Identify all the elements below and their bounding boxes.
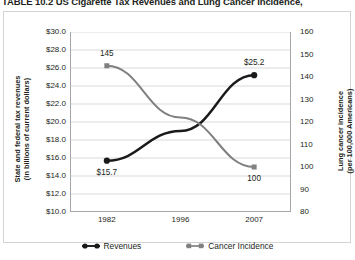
chart-plot-frame: State and federal tax revenues (in billi…	[3, 11, 351, 243]
left-axis-tick: $24.0	[26, 81, 66, 91]
right-axis-tick: 80	[300, 207, 340, 217]
left-axis-tick: $14.0	[26, 171, 66, 181]
plot-area: $15.7$25.2145100	[70, 32, 291, 212]
left-axis-tick: $18.0	[26, 135, 66, 145]
left-axis-tick: $20.0	[26, 117, 66, 127]
right-axis-tick: 130	[300, 95, 340, 105]
right-axis-tick: 110	[300, 140, 340, 150]
right-axis-tick: 90	[300, 185, 340, 195]
left-axis-tick: $16.0	[26, 153, 66, 163]
page-title: TABLE 10.2 US Cigarette Tax Revenues and…	[2, 0, 355, 8]
left-axis-tick: $22.0	[26, 99, 66, 109]
chart-figure: TABLE 10.2 US Cigarette Tax Revenues and…	[0, 0, 355, 260]
legend-label-cancer-incidence: Cancer Incidence	[208, 241, 273, 251]
left-axis-tick-labels: $30.0$28.0$26.0$24.0$22.0$20.0$18.0$16.0…	[26, 27, 66, 212]
left-axis-tick: $28.0	[26, 45, 66, 55]
right-axis-title-line-2: (per 100,000 Americans)	[345, 54, 354, 209]
left-axis-tick: $26.0	[26, 63, 66, 73]
right-axis-tick: 160	[300, 27, 340, 37]
legend-item-cancer-incidence[interactable]: Cancer Incidence	[185, 241, 273, 251]
x-axis-tick: 1982	[77, 215, 137, 224]
x-axis-tick-labels: 198219962007	[70, 215, 291, 229]
data-point-label: $15.7	[77, 168, 137, 177]
legend-item-revenues[interactable]: Revenues	[81, 241, 142, 251]
x-axis-tick: 1996	[151, 215, 211, 224]
filled-square-line-marker-icon	[185, 241, 205, 251]
right-axis-tick: 140	[300, 72, 340, 82]
left-axis-tick: $12.0	[26, 189, 66, 199]
data-point-label: 145	[77, 49, 137, 58]
left-axis-tick: $10.0	[26, 207, 66, 217]
right-axis-tick: 100	[300, 162, 340, 172]
right-axis-tick-labels: 1601501401301201101009080	[300, 27, 340, 212]
legend-label-revenues: Revenues	[104, 241, 142, 251]
x-axis-tick: 2007	[224, 215, 284, 224]
chart-legend: Revenues Cancer Incidence	[3, 238, 351, 254]
left-axis-tick: $30.0	[26, 27, 66, 37]
right-axis-tick: 120	[300, 117, 340, 127]
data-point-label: $25.2	[224, 58, 284, 67]
right-axis-tick: 150	[300, 50, 340, 60]
left-axis-title-line-1: State and federal tax revenues	[13, 52, 22, 207]
data-point-label: 100	[224, 174, 284, 183]
filled-circle-line-marker-icon	[81, 241, 101, 251]
